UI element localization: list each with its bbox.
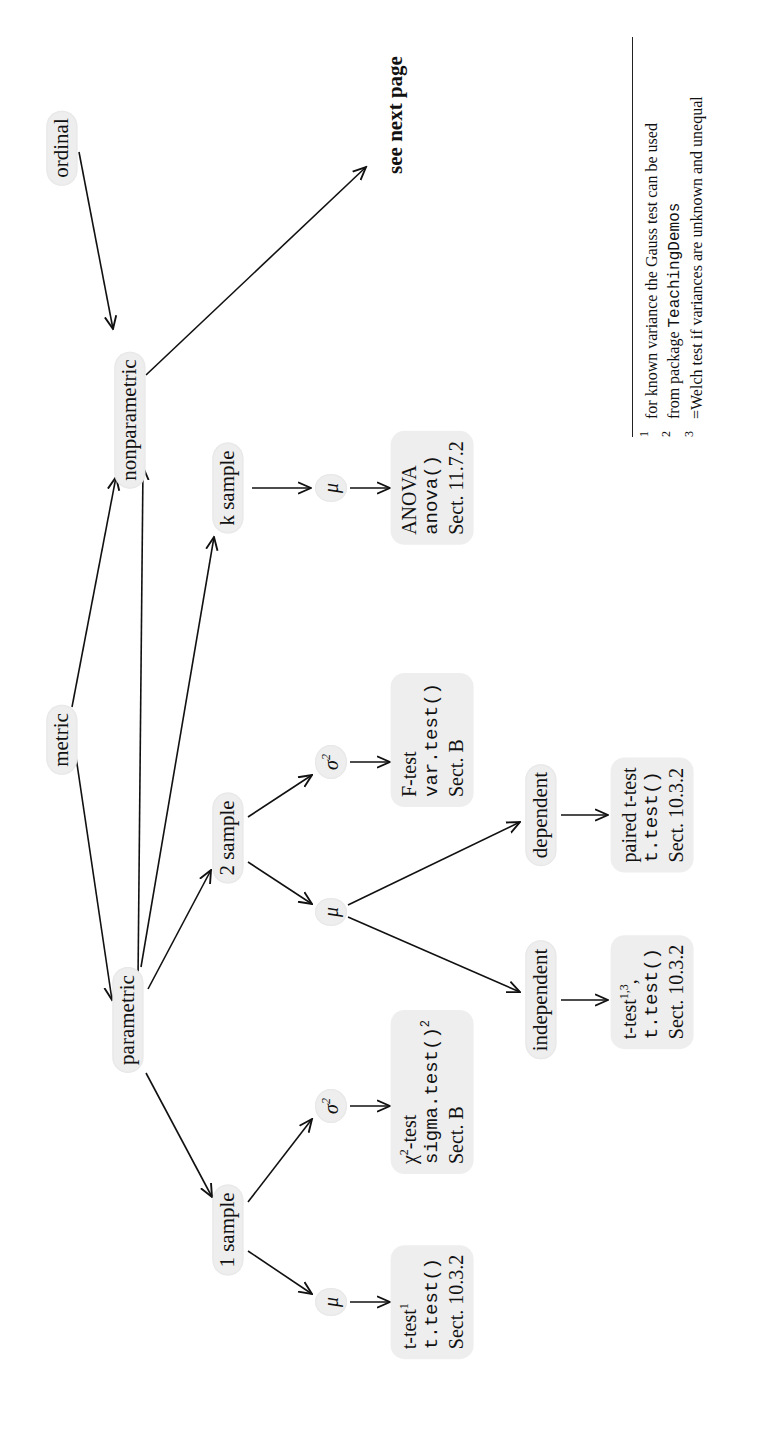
package-name: TeachingDemos: [666, 203, 684, 328]
footnote-number: 2: [658, 431, 674, 437]
node-label: ordinal: [49, 118, 73, 177]
r-function: t.test(): [421, 1255, 444, 1349]
test-name: paired t-test: [617, 768, 641, 863]
box-f-test: F-test var.test() Sect. B: [391, 673, 474, 807]
node-k-sample: k sample: [212, 442, 243, 533]
r-function: var.test(): [421, 683, 444, 797]
footnote-number: 1: [636, 431, 652, 437]
edge-nonparametric-next: [146, 167, 366, 375]
footnote-2: 2 from package TeachingDemos: [663, 17, 687, 437]
edge-2sample-sigma: [248, 775, 312, 817]
node-label: independent: [528, 949, 552, 1052]
footnote-rule: [632, 37, 633, 437]
node-sigma-2-sample: σ2: [315, 745, 347, 779]
r-function: t.test(): [641, 768, 664, 863]
box-t-test-independent: t-test1,3, t.test() Sect. 10.3.2: [611, 935, 694, 1049]
superscript: 2: [319, 1098, 333, 1104]
node-label: metric: [49, 713, 73, 767]
section-ref: Sect. 10.3.2: [663, 768, 687, 863]
edge-2sample-mu: [248, 862, 312, 904]
test-name: t-test1,3,: [617, 945, 641, 1039]
edge-1sample-mu: [248, 1251, 312, 1294]
edge-parametric-2sample: [148, 870, 211, 989]
node-label: 2 sample: [215, 800, 239, 875]
node-metric: metric: [46, 705, 77, 775]
box-anova: ANOVA anova() Sect. 11.7.2: [391, 431, 474, 545]
section-ref: Sect. 10.3.2: [663, 945, 687, 1039]
node-parametric: parametric: [112, 967, 143, 1073]
node-label: nonparametric: [117, 359, 141, 480]
footnote-ref: 1: [397, 1303, 411, 1309]
sigma-symbol: σ: [320, 1104, 342, 1114]
node-label: dependent: [528, 772, 552, 858]
node-independent: independent: [525, 941, 556, 1060]
node-label: 1 sample: [215, 1192, 239, 1267]
section-ref: Sect. 10.3.2: [443, 1255, 467, 1349]
mu-symbol: μ: [320, 907, 342, 917]
node-nonparametric: nonparametric: [114, 351, 145, 488]
test-label: t-test: [398, 1309, 420, 1349]
section-ref: Sect. 11.7.2: [443, 441, 467, 535]
test-name: F-test: [397, 683, 421, 797]
r-function: t.test(): [641, 945, 664, 1039]
mu-symbol: μ: [320, 1297, 342, 1307]
section-ref: Sect. B: [443, 1020, 467, 1164]
r-function: anova(): [421, 441, 444, 535]
node-label: parametric: [115, 975, 139, 1065]
superscript: 2: [319, 754, 333, 760]
code-text: sigma.test(): [421, 1027, 443, 1164]
node-2-sample: 2 sample: [212, 792, 243, 883]
test-name: χ2-test: [397, 1020, 421, 1164]
footnote-3: 3 =Welch test if variances are unknown a…: [686, 17, 708, 437]
footnote-ref: 1,3: [617, 984, 631, 999]
edge-parametric-ksample: [141, 537, 214, 967]
test-label: -test: [398, 1115, 420, 1149]
test-name: ANOVA: [397, 441, 421, 535]
node-sigma-1-sample: σ2: [315, 1089, 347, 1123]
edge-ordinal-nonparametric: [79, 152, 113, 329]
footnote-number: 3: [681, 431, 697, 437]
box-chi2-test: χ2-test sigma.test()2 Sect. B: [391, 1010, 474, 1174]
footnote-ref: 2: [419, 1020, 433, 1027]
diagram-stage: ordinal metric nonparametric parametric …: [0, 0, 762, 1437]
node-1-sample: 1 sample: [212, 1184, 243, 1275]
node-label: k sample: [215, 450, 239, 525]
edge-parametric-nonparametric: [138, 467, 143, 980]
footnotes: 1 for known variance the Gauss test can …: [632, 17, 708, 437]
edge-metric-nonparametric: [72, 477, 116, 707]
edge-metric-parametric: [76, 757, 112, 1000]
superscript: 2: [397, 1149, 411, 1155]
footnote-text: for known variance the Gauss test can be…: [643, 123, 660, 419]
chi-symbol: χ: [398, 1155, 420, 1164]
mu-symbol: μ: [320, 483, 342, 493]
edge-mu2-independent: [348, 917, 520, 992]
punctuation: ,: [618, 979, 640, 984]
node-ordinal: ordinal: [46, 110, 77, 185]
section-ref: Sect. B: [443, 683, 467, 797]
footnote-text: =Welch test if variances are unknown and…: [688, 96, 705, 419]
node-mu-1-sample: μ: [315, 1288, 347, 1316]
node-mu-k-sample: μ: [315, 474, 347, 502]
edge-parametric-1sample: [146, 1073, 212, 1197]
footnote-1: 1 for known variance the Gauss test can …: [641, 17, 663, 437]
test-label: t-test: [618, 999, 640, 1039]
footnote-text: from package: [665, 327, 682, 419]
edge-mu2-dependent: [348, 822, 520, 905]
edge-1sample-sigma: [248, 1119, 312, 1202]
see-next-page-label: see next page: [383, 56, 408, 174]
test-name: t-test1: [397, 1255, 421, 1349]
box-paired-t-test: paired t-test t.test() Sect. 10.3.2: [611, 758, 694, 873]
node-dependent: dependent: [525, 764, 556, 866]
r-function: sigma.test()2: [421, 1020, 444, 1164]
sigma-symbol: σ: [320, 760, 342, 770]
box-t-test-one-sample: t-test1 t.test() Sect. 10.3.2: [391, 1245, 474, 1359]
node-mu-2-sample: μ: [315, 898, 347, 926]
